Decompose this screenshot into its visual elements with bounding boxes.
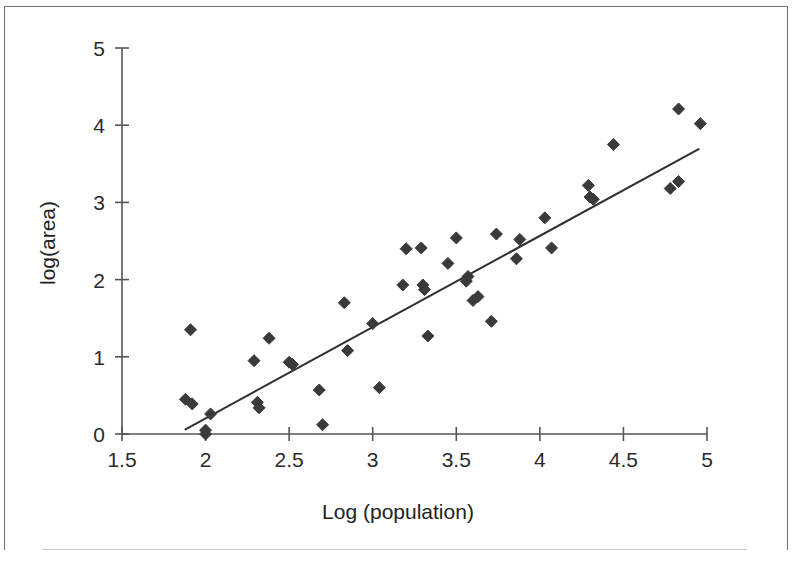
scatter-plot: 0123451.522.533.544.55 <box>0 0 796 566</box>
x-tick-label: 1.5 <box>107 448 136 471</box>
data-point-marker <box>342 345 354 357</box>
data-point-marker <box>415 242 427 254</box>
data-point-marker <box>450 232 462 244</box>
data-point-marker <box>490 228 502 240</box>
data-point-marker <box>664 183 676 195</box>
data-point-marker <box>607 139 619 151</box>
data-point-marker <box>263 332 275 344</box>
y-tick-label: 1 <box>93 346 105 369</box>
y-tick-label: 5 <box>93 37 105 60</box>
trend-line <box>186 149 699 429</box>
y-axis-label-wrap: log(area) <box>28 175 68 315</box>
data-point-marker <box>338 297 350 309</box>
y-axis-label: log(area) <box>36 163 60 323</box>
axes <box>122 48 707 434</box>
y-tick-label: 3 <box>93 191 105 214</box>
data-point-marker <box>373 382 385 394</box>
trend-line-segment <box>186 149 699 429</box>
x-tick-label: 2.5 <box>275 448 304 471</box>
data-point-marker <box>313 384 325 396</box>
data-point-marker <box>539 212 551 224</box>
data-point-marker <box>694 118 706 130</box>
tick-marks <box>115 48 707 441</box>
x-tick-label: 4.5 <box>609 448 638 471</box>
data-point-marker <box>673 176 685 188</box>
x-axis-label: Log (population) <box>0 500 796 524</box>
data-point-marker <box>397 279 409 291</box>
data-point-marker <box>317 419 329 431</box>
data-point-marker <box>400 243 412 255</box>
data-point-marker <box>442 257 454 269</box>
x-tick-label: 3.5 <box>442 448 471 471</box>
data-point-marker <box>367 318 379 330</box>
y-tick-label: 4 <box>93 114 105 137</box>
data-point-marker <box>248 355 260 367</box>
chart-page: 0123451.522.533.544.55 log(area) Log (po… <box>0 0 796 566</box>
x-tick-label: 3 <box>367 448 379 471</box>
data-point-marker <box>546 242 558 254</box>
x-tick-label: 5 <box>701 448 713 471</box>
x-tick-label: 2 <box>200 448 212 471</box>
y-tick-label: 2 <box>93 269 105 292</box>
tick-labels: 0123451.522.533.544.55 <box>93 37 713 471</box>
x-tick-label: 4 <box>534 448 546 471</box>
data-point-marker <box>422 330 434 342</box>
data-point-marker <box>582 179 594 191</box>
y-tick-label: 0 <box>93 423 105 446</box>
data-point-marker <box>485 315 497 327</box>
data-point-marker <box>673 103 685 115</box>
data-point-marker <box>510 253 522 265</box>
data-point-marker <box>185 324 197 336</box>
